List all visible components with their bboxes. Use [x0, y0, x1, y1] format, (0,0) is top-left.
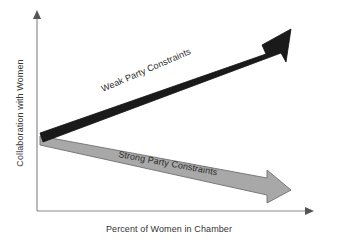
chart-plot-area: Weak Party Constraints Strong Party Cons… — [0, 0, 338, 242]
arrow-up-icon — [33, 10, 41, 19]
chart-figure: Weak Party Constraints Strong Party Cons… — [0, 0, 338, 242]
series-arrow-strong-party-constraints — [40, 136, 291, 203]
y-axis-title: Collaboration with Women — [15, 13, 25, 213]
arrow-right-icon — [305, 207, 314, 215]
x-axis-title: Percent of Women in Chamber — [0, 224, 338, 234]
strong-party-arrow-shape — [40, 136, 291, 203]
weak-party-arrow-shape — [40, 29, 291, 142]
series-arrow-weak-party-constraints — [40, 29, 291, 142]
